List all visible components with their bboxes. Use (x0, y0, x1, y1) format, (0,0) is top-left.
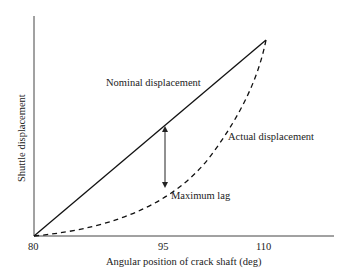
maximum-lag-label: Maximum lag (171, 190, 231, 201)
x-tick-95: 95 (158, 241, 169, 252)
actual-displacement-label: Actual displacement (228, 131, 314, 142)
y-axis-title: Shuttle displacement (16, 94, 27, 182)
x-tick-110: 110 (256, 241, 271, 252)
x-tick-80: 80 (28, 241, 39, 252)
chart: Nominal displacement Actual displacement… (0, 0, 351, 280)
nominal-displacement-label: Nominal displacement (106, 77, 201, 88)
x-axis-title: Angular position of crack shaft (deg) (106, 256, 262, 268)
